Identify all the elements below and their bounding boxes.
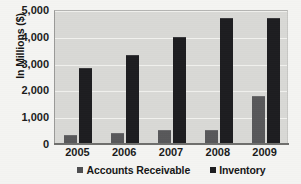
legend-swatch-icon	[77, 167, 83, 173]
bars-layer	[55, 11, 287, 144]
bar-group	[205, 11, 233, 144]
bar	[79, 68, 92, 144]
y-axis-tick-label: 5,000	[5, 4, 49, 16]
bar	[220, 18, 233, 144]
bar-group	[111, 11, 139, 144]
legend-label: Inventory	[219, 164, 265, 176]
x-axis-tick-labels: 20052006200720082009	[54, 146, 289, 162]
bar	[126, 55, 139, 144]
bar-chart-figure: In Millions ($) 01,0002,0003,0004,0005,0…	[0, 0, 301, 184]
y-axis-tick-labels: 01,0002,0003,0004,0005,000	[8, 10, 52, 144]
legend-entry[interactable]: Accounts Receivable	[77, 164, 190, 176]
bar	[173, 37, 186, 144]
bar-group	[158, 11, 186, 144]
y-axis-tick-label: 0	[5, 138, 49, 150]
y-axis-tick-label: 3,000	[5, 58, 49, 70]
x-axis-tick-label: 2005	[65, 146, 89, 158]
bar	[267, 18, 280, 144]
bar-group	[252, 11, 280, 144]
x-axis-tick-label: 2007	[159, 146, 183, 158]
bar	[252, 96, 265, 144]
y-axis-tick-label: 4,000	[5, 31, 49, 43]
plot-area	[54, 10, 288, 144]
x-axis-tick-label: 2006	[112, 146, 136, 158]
legend-entry[interactable]: Inventory	[210, 164, 265, 176]
y-axis-tick-label: 1,000	[5, 111, 49, 123]
x-axis-tick-label: 2009	[252, 146, 276, 158]
x-axis-line	[54, 143, 289, 145]
legend-label: Accounts Receivable	[86, 164, 190, 176]
bar	[158, 130, 171, 144]
legend-swatch-icon	[210, 167, 216, 173]
bar-group	[64, 11, 92, 144]
y-axis-tick-label: 2,000	[5, 84, 49, 96]
chart-legend: Accounts ReceivableInventory	[54, 164, 289, 176]
bar	[205, 130, 218, 144]
x-axis-tick-label: 2008	[206, 146, 230, 158]
